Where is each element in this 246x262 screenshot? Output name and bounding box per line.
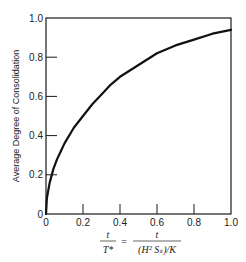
x-tick-label: 0.4 bbox=[113, 217, 127, 228]
x-title-lhs-numerator: t bbox=[107, 229, 110, 240]
x-title-rhs-numerator: t bbox=[156, 229, 159, 240]
y-axis-title: Average Degree of Consolidation bbox=[11, 50, 21, 182]
x-title-lhs-denominator: T* bbox=[103, 244, 114, 255]
x-axis-ticks: 00.20.40.60.81.0 bbox=[43, 204, 238, 228]
y-axis-ticks: 00.20.40.60.81.0 bbox=[29, 13, 57, 220]
x-axis-title: t T* = t (H² Sₛ)/K bbox=[100, 229, 181, 256]
y-tick-label: 0.6 bbox=[29, 91, 43, 102]
x-tick-label: 0.2 bbox=[76, 217, 90, 228]
x-title-rhs-denominator: (H² Sₛ)/K bbox=[138, 244, 177, 256]
x-tick-label: 0.6 bbox=[150, 217, 164, 228]
consolidation-curve bbox=[46, 30, 231, 214]
y-tick-label: 1.0 bbox=[29, 13, 43, 24]
x-tick-label: 0.8 bbox=[187, 217, 201, 228]
consolidation-chart: 00.20.40.60.81.0 00.20.40.60.81.0 Averag… bbox=[0, 0, 246, 262]
x-tick-label: 1.0 bbox=[224, 217, 238, 228]
x-tick-label: 0 bbox=[43, 217, 49, 228]
y-tick-label: 0.2 bbox=[29, 169, 43, 180]
y-tick-label: 0.4 bbox=[29, 130, 43, 141]
x-title-equals: = bbox=[121, 236, 127, 247]
y-tick-label: 0.8 bbox=[29, 52, 43, 63]
plot-frame bbox=[46, 18, 231, 214]
